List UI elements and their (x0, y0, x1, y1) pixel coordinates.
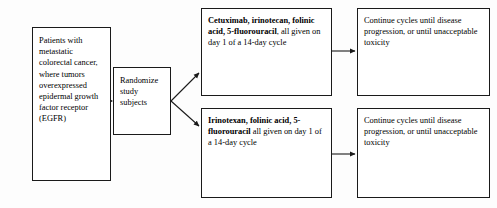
node-outcome-arm-a: Continue cycles until disease progressio… (357, 8, 490, 96)
arm-a-regimen: Cetuximab, irinotecan, folinic acid, 5-f… (208, 15, 326, 49)
arm-b-sep-2: , (289, 116, 291, 125)
arm-a-sep-2: , (288, 16, 290, 25)
node-treatment-arm-b: Irinotexan, folinic acid, 5-fluorouracil… (201, 108, 332, 198)
arm-b-drug-1: Irinotexan (208, 116, 246, 125)
node-treatment-arm-a: Cetuximab, irinotecan, folinic acid, 5-f… (201, 8, 332, 96)
edge-randomize-arm-a (171, 73, 199, 101)
arm-a-drug-1: Cetuximab (208, 16, 248, 25)
arm-a-sep-3: , (223, 27, 225, 36)
node-outcome-arm-b: Continue cycles until disease progressio… (357, 108, 490, 198)
node-randomize-text: Randomize study subjects (120, 75, 165, 109)
arm-a-drug-4: 5-fluorouracil (227, 27, 277, 36)
edge-randomize-arm-b (171, 101, 199, 126)
node-randomize: Randomize study subjects (113, 67, 171, 135)
arm-a-drug-2: irinotecan (252, 16, 288, 25)
arm-b-sep-1: , (246, 116, 248, 125)
outcome-b-text: Continue cycles until disease progressio… (364, 115, 484, 149)
arm-b-regimen: Irinotexan, folinic acid, 5-fluorouracil… (208, 115, 326, 149)
flowchart-diagram: Patients with metastatic colorectal canc… (0, 0, 497, 208)
arm-a-sep-1: , (248, 16, 250, 25)
outcome-a-text: Continue cycles until disease progressio… (364, 15, 484, 49)
arm-b-drug-2: folinic acid (250, 116, 289, 125)
node-population: Patients with metastatic colorectal canc… (32, 27, 111, 181)
node-population-text: Patients with metastatic colorectal canc… (39, 35, 105, 125)
